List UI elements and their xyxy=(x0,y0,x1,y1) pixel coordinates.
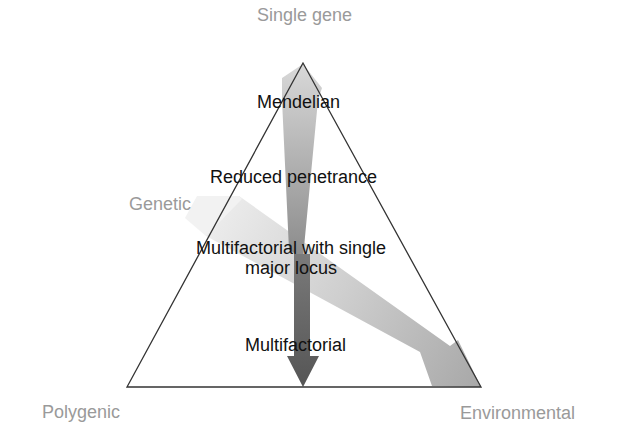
inheritance-triangle-diagram: Single gene Genetic Polygenic Environmen… xyxy=(0,0,629,443)
label-reduced-penetrance: Reduced penetrance xyxy=(210,168,377,186)
label-polygenic: Polygenic xyxy=(42,403,120,421)
label-genetic: Genetic xyxy=(129,195,191,213)
diagonal-arrow-genetic-to-environmental xyxy=(185,196,481,387)
label-multifactorial: Multifactorial xyxy=(245,336,346,354)
label-multifactorial-major-locus-line2: major locus xyxy=(245,259,337,277)
label-multifactorial-major-locus-line1: Multifactorial with single xyxy=(196,239,386,257)
triangle-graphic xyxy=(0,0,629,443)
label-environmental: Environmental xyxy=(460,404,575,422)
label-mendelian: Mendelian xyxy=(257,93,340,111)
label-single-gene: Single gene xyxy=(257,6,352,24)
